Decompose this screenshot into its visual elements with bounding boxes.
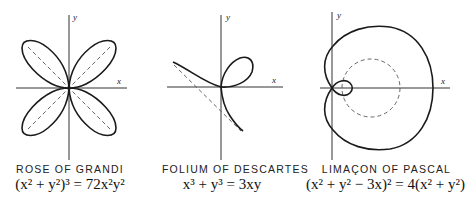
- folium-asymptote-dashed: [174, 65, 241, 131]
- folium-loop: [221, 57, 253, 87]
- rose-caption: ROSE OF GRANDI: [0, 163, 140, 175]
- folium-equation: x³ + y³ = 3xy: [162, 176, 282, 193]
- rose-equation: (x² + y²)³ = 72x²y²: [0, 176, 140, 193]
- folium-caption: FOLIUM OF DESCARTES: [162, 163, 282, 175]
- limacon-equation: (x² + y² − 3x)² = 4(x² + y²): [298, 176, 473, 193]
- rose-of-grandi-plot: y x: [16, 12, 127, 160]
- folium-plot: y x: [167, 12, 283, 160]
- folium-x-label: x: [271, 75, 276, 85]
- limacon-y-label: y: [336, 10, 341, 20]
- limacon-plot: y x: [320, 10, 450, 160]
- limacon-x-label: x: [440, 76, 445, 86]
- limacon-caption: LIMAÇON OF PASCAL: [300, 163, 473, 175]
- rose-y-label: y: [72, 12, 77, 22]
- folium-left-branch: [173, 62, 221, 87]
- rose-x-label: x: [116, 76, 121, 86]
- folium-y-label: y: [225, 12, 230, 22]
- folium-lower-branch: [221, 87, 243, 131]
